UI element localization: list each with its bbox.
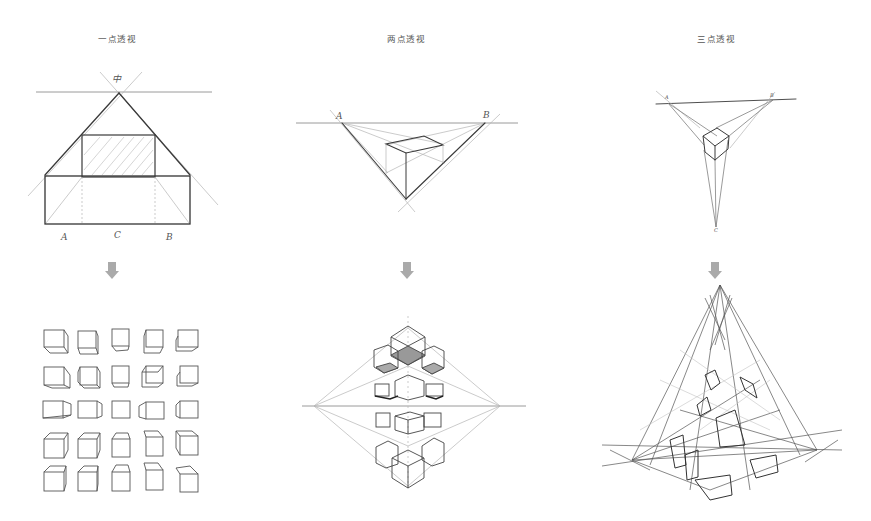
label-a: A [60, 232, 68, 242]
label-c: C [114, 230, 121, 240]
label-a: A [335, 111, 343, 121]
label-a: A [664, 94, 669, 100]
label-c: C [714, 227, 718, 233]
label-b: B [165, 232, 173, 242]
two-point-diagram: A B [290, 0, 580, 250]
three-point-diagram: A B C [580, 0, 871, 250]
one-point-diagram: 中 A C B [0, 0, 290, 250]
label-b: B [482, 110, 490, 120]
label-vp: 中 [112, 74, 122, 84]
three-point-building-sketch [580, 250, 871, 521]
two-point-cube-cluster [290, 250, 580, 521]
cube-grid-sketch [0, 250, 290, 521]
label-b: B [769, 92, 774, 98]
